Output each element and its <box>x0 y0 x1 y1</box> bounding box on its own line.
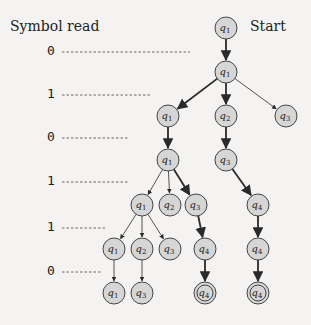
state-node: q3 <box>275 105 297 127</box>
accept-state-node: q4 <box>194 282 216 304</box>
state-node: q4 <box>247 238 269 260</box>
state-node: q1 <box>103 238 125 260</box>
transition-arrow <box>148 170 162 195</box>
state-node: q1 <box>131 194 153 216</box>
transition-arrow <box>198 216 202 237</box>
transition-arrow <box>232 169 251 195</box>
state-node: q4 <box>194 238 216 260</box>
state-node: q1 <box>157 105 179 127</box>
state-node: q1 <box>103 282 125 304</box>
state-node: q2 <box>159 194 181 216</box>
state-node: q3 <box>185 194 207 216</box>
transition-arrow <box>148 214 164 239</box>
state-node: q2 <box>215 105 237 127</box>
transition-arrow <box>178 79 218 109</box>
state-node: q3 <box>215 149 237 171</box>
transition-arrow <box>120 214 136 239</box>
transition-arrow <box>168 171 169 193</box>
state-node: q1 <box>157 149 179 171</box>
state-node: q2 <box>131 238 153 260</box>
nodes: q1q1q1q2q3q1q3q1q2q3q4q1q2q3q4q4q1q3q4q4 <box>103 17 297 304</box>
state-node: q1 <box>215 61 237 83</box>
transition-arrow <box>235 79 276 109</box>
state-node: q1 <box>215 17 237 39</box>
state-node: q3 <box>131 282 153 304</box>
accept-state-node: q4 <box>247 282 269 304</box>
state-node: q4 <box>247 194 269 216</box>
transition-arrow <box>174 169 190 194</box>
nfa-computation-tree: q1q1q1q2q3q1q3q1q2q3q4q1q2q3q4q4q1q3q4q4 <box>0 0 311 325</box>
state-node: q3 <box>159 238 181 260</box>
